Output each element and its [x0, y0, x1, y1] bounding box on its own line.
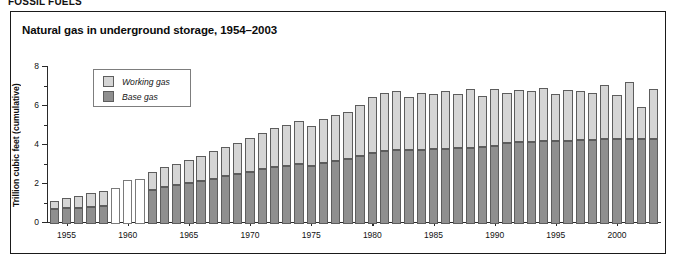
bar-segment-working-1957	[86, 193, 95, 207]
y-tick-2	[42, 183, 47, 184]
bar-segment-working-1980	[368, 97, 377, 153]
bar-segment-base-1979	[355, 156, 364, 224]
bar-segment-base-1984	[417, 150, 426, 224]
bar-segment-base-1998	[588, 140, 597, 224]
bar-1976	[319, 68, 328, 224]
bar-segment-working-1996	[563, 90, 572, 141]
bar-segment-working-1982	[392, 91, 401, 150]
bar-1975	[307, 68, 316, 224]
bar-segment-working-1989	[478, 96, 487, 147]
bar-segment-base-2002	[637, 139, 646, 224]
bar-segment-base-1999	[600, 139, 609, 224]
bar-segment-working-1973	[282, 125, 291, 166]
bar-segment-working-1990	[490, 89, 499, 146]
y-tick-label-2: 2	[34, 178, 39, 188]
bar-segment-base-1995	[551, 141, 560, 224]
x-tick-label-1990: 1990	[485, 230, 504, 240]
bar-segment-working-1988	[466, 89, 475, 147]
bar-segment-base-1969	[233, 174, 242, 224]
bar-1999	[600, 68, 609, 224]
bar-segment-base-1993	[527, 142, 536, 224]
bar-1972	[270, 68, 279, 224]
bar-segment-base-1973	[282, 166, 291, 225]
bar-segment-working-1998	[588, 93, 597, 140]
x-tick-label-1980: 1980	[363, 230, 382, 240]
bar-1978	[343, 68, 352, 224]
bar-segment-base-1963	[160, 187, 169, 224]
x-tick-label-1970: 1970	[241, 230, 260, 240]
bar-segment-base-1966	[196, 181, 205, 224]
bar-1984	[417, 68, 426, 224]
y-tick-label-4: 4	[34, 139, 39, 149]
figure-page: FOSSIL FUELS Natural gas in underground …	[0, 0, 678, 262]
bar-segment-base-2001	[625, 139, 634, 224]
bar-segment-base-1986	[441, 149, 450, 224]
bar-segment-base-2000	[612, 139, 621, 224]
bar-segment-base-1990	[490, 146, 499, 224]
bar-2001	[625, 68, 634, 224]
x-tick-label-1960: 1960	[118, 230, 137, 240]
bar-segment-base-1968	[221, 176, 230, 224]
bar-segment-working-1967	[209, 151, 218, 179]
bar-segment-working-1975	[307, 126, 316, 167]
bar-segment-working-1978	[343, 112, 352, 159]
legend-label-base-gas: Base gas	[122, 92, 158, 102]
bar-1994	[539, 68, 548, 224]
bar-segment-working-1977	[331, 115, 340, 161]
bar-segment-base-1985	[429, 149, 438, 224]
bar-segment-working-1979	[355, 105, 364, 156]
legend-label-working-gas: Working gas	[122, 77, 170, 87]
bar-1968	[221, 68, 230, 224]
bar-segment-working-1954	[50, 201, 59, 209]
bar-segment-working-1964	[172, 164, 181, 185]
bar-1989	[478, 68, 487, 224]
bar-segment-working-1997	[576, 91, 585, 140]
bar-segment-working-2002	[637, 107, 646, 139]
bar-segment-working-1999	[600, 85, 609, 140]
bar-segment-working-1992	[514, 90, 523, 142]
x-tick-label-1995: 1995	[546, 230, 565, 240]
bar-segment-working-2001	[625, 82, 634, 140]
bar-segment-working-1983	[404, 97, 413, 150]
legend-swatch-working-gas	[103, 76, 114, 87]
bar-2003	[649, 68, 658, 224]
bar-1983	[404, 68, 413, 224]
y-tick-4	[42, 144, 47, 145]
legend-item-working-gas: Working gas	[103, 76, 170, 87]
bar-segment-working-1962	[148, 172, 157, 190]
legend-item-base-gas: Base gas	[103, 91, 158, 102]
bar-segment-base-1974	[294, 164, 303, 224]
bar-segment-working-1972	[270, 128, 279, 167]
bar-1977	[331, 68, 340, 224]
bar-segment-base-1972	[270, 167, 279, 224]
x-tick-label-1965: 1965	[179, 230, 198, 240]
bar-segment-base-1971	[258, 169, 267, 224]
bar-1971	[258, 68, 267, 224]
legend-swatch-base-gas	[103, 91, 114, 102]
bar-1970	[245, 68, 254, 224]
bar-segment-base-1965	[184, 183, 193, 224]
bar-segment-base-1994	[539, 141, 548, 224]
bar-1997	[576, 68, 585, 224]
bar-segment-working-1955	[62, 198, 71, 209]
bar-1995	[551, 68, 560, 224]
bar-1955	[62, 68, 71, 224]
y-tick-8	[42, 66, 47, 67]
bar-segment-nodata-1960	[123, 180, 132, 224]
bar-1974	[294, 68, 303, 224]
bar-segment-nodata-1961	[135, 179, 144, 224]
bar-segment-base-1996	[563, 141, 572, 224]
chart-legend: Working gas Base gas	[93, 69, 191, 107]
bar-2000	[612, 68, 621, 224]
x-tick-label-1985: 1985	[424, 230, 443, 240]
bar-segment-base-1977	[331, 161, 340, 224]
bar-segment-working-1981	[380, 93, 389, 151]
y-tick-label-0: 0	[34, 217, 39, 227]
bar-segment-base-1970	[245, 172, 254, 224]
bar-segment-base-1991	[502, 143, 511, 224]
bar-1969	[233, 68, 242, 224]
bar-segment-base-1976	[319, 163, 328, 224]
y-tick-minor-1	[44, 203, 48, 204]
y-tick-label-6: 6	[34, 100, 39, 110]
bar-2002	[637, 68, 646, 224]
